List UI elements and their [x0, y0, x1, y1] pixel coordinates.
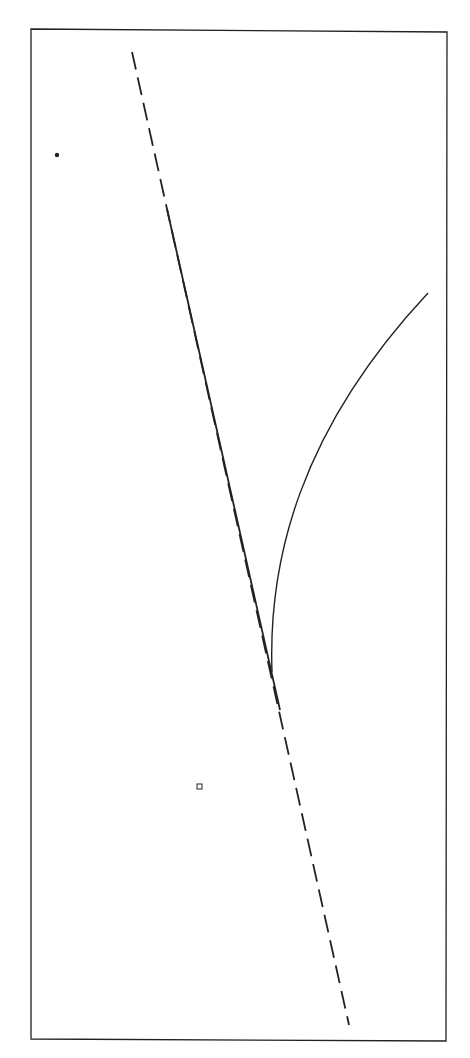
tangent-curve	[272, 293, 428, 672]
point-dot	[55, 153, 59, 157]
square-marker	[197, 784, 202, 789]
diagram-canvas	[0, 0, 470, 1058]
solid-line-segment	[167, 209, 280, 710]
